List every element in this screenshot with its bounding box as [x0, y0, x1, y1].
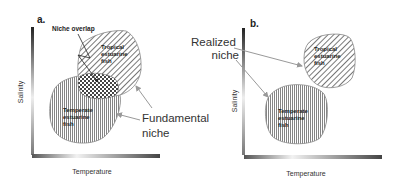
realized-niche-label: Realized niche — [191, 36, 239, 61]
fundamental-arrow-temperate — [117, 114, 140, 120]
panel-b: b. Salinity Temperature Tropical estuari… — [191, 18, 382, 178]
niche-overlap-region — [78, 73, 119, 99]
x-axis-label: Temperature — [286, 170, 325, 178]
panel-b-label: b. — [250, 18, 259, 29]
y-axis-label: Salinity — [231, 89, 239, 112]
y-axis-label: Salinity — [17, 80, 25, 103]
x-axis-label: Temperature — [72, 168, 111, 176]
y-axis — [242, 28, 245, 155]
panel-a-label: a. — [37, 14, 46, 25]
panel-a: a. Salinity Temperature Tropical estuari… — [17, 14, 212, 176]
x-axis — [244, 155, 382, 159]
tropical-fish-region — [304, 34, 355, 88]
x-axis — [32, 154, 160, 158]
fundamental-arrow-tropical — [136, 86, 152, 108]
niche-diagram: a. Salinity Temperature Tropical estuari… — [0, 0, 393, 189]
niche-overlap-label: Niche overlap — [52, 25, 95, 33]
realized-arrow-temperate — [236, 60, 268, 97]
y-axis — [31, 27, 34, 155]
fundamental-niche-label: Fundamental niche — [142, 112, 212, 139]
